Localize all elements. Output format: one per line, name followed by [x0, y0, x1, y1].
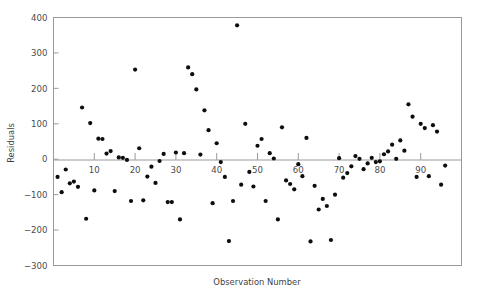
x-tick-label: 70 — [334, 165, 345, 175]
data-point — [219, 160, 223, 164]
data-point — [125, 158, 129, 162]
data-point — [80, 105, 84, 109]
x-axis-tick-labels: 102030405060708090 — [89, 165, 426, 175]
data-point — [247, 170, 251, 174]
data-point — [104, 151, 108, 155]
data-point — [121, 156, 125, 160]
data-point — [64, 167, 68, 171]
data-point — [96, 137, 100, 141]
data-point — [76, 185, 80, 189]
x-tick-label: 40 — [211, 165, 222, 175]
data-point — [88, 121, 92, 125]
y-tick-label: −200 — [24, 225, 48, 235]
data-point — [113, 189, 117, 193]
x-tick-label: 30 — [170, 165, 181, 175]
data-point — [182, 151, 186, 155]
y-tick-label: 400 — [31, 13, 47, 23]
x-tick-label: 20 — [130, 165, 141, 175]
x-tick-label: 60 — [293, 165, 304, 175]
data-point — [406, 102, 410, 106]
data-point — [186, 65, 190, 69]
data-point — [259, 137, 263, 141]
data-point — [439, 183, 443, 187]
data-point — [264, 199, 268, 203]
x-tick-label: 50 — [252, 165, 263, 175]
data-point — [419, 122, 423, 126]
data-point — [349, 164, 353, 168]
y-tick-label: 0 — [42, 154, 47, 164]
data-point — [268, 151, 272, 155]
data-point — [145, 174, 149, 178]
data-point — [202, 108, 206, 112]
data-point — [68, 181, 72, 185]
data-point — [374, 160, 378, 164]
data-point — [141, 198, 145, 202]
data-point — [92, 188, 96, 192]
data-point — [410, 115, 414, 119]
data-point — [206, 128, 210, 132]
data-point — [341, 176, 345, 180]
x-axis-title: Observation Number — [213, 277, 301, 287]
data-point — [109, 149, 113, 153]
data-point — [243, 122, 247, 126]
data-point — [255, 144, 259, 148]
data-point — [378, 159, 382, 163]
data-point — [402, 149, 406, 153]
data-point — [60, 190, 64, 194]
data-point — [239, 183, 243, 187]
data-point — [276, 217, 280, 221]
data-point — [178, 217, 182, 221]
data-point — [251, 184, 255, 188]
data-point — [353, 154, 357, 158]
y-tick-label: 300 — [31, 48, 47, 58]
data-point — [382, 152, 386, 156]
data-point — [162, 152, 166, 156]
data-point — [333, 193, 337, 197]
data-point — [390, 143, 394, 147]
data-point — [100, 137, 104, 141]
data-point — [366, 161, 370, 165]
x-tick-label: 10 — [89, 165, 100, 175]
data-point — [117, 155, 121, 159]
data-point — [227, 239, 231, 243]
data-point — [443, 163, 447, 167]
data-point — [304, 136, 308, 140]
data-point — [55, 175, 59, 179]
y-tick-label: −300 — [24, 261, 48, 271]
y-axis-tick-labels: −300−200−1000100200300400 — [24, 13, 48, 271]
data-point — [321, 197, 325, 201]
x-tick-label: 80 — [374, 165, 385, 175]
data-point — [423, 126, 427, 130]
data-point — [345, 171, 349, 175]
data-point — [280, 125, 284, 129]
y-axis-ticks — [54, 18, 59, 266]
x-tick-label: 90 — [415, 165, 426, 175]
data-point — [329, 238, 333, 242]
data-point — [296, 162, 300, 166]
data-point — [157, 159, 161, 163]
data-point — [129, 199, 133, 203]
y-axis-title: Residuals — [6, 123, 16, 163]
data-point — [170, 200, 174, 204]
data-point — [174, 150, 178, 154]
data-point — [223, 175, 227, 179]
data-point — [300, 174, 304, 178]
data-point — [398, 138, 402, 142]
data-point — [357, 157, 361, 161]
data-point — [288, 182, 292, 186]
data-point — [149, 165, 153, 169]
data-point — [235, 23, 239, 27]
data-point — [284, 178, 288, 182]
data-point — [211, 201, 215, 205]
chart-canvas: −300−200−1000100200300400 10203040506070… — [0, 0, 479, 294]
data-point — [370, 156, 374, 160]
data-point — [133, 67, 137, 71]
data-point — [317, 207, 321, 211]
data-point — [415, 175, 419, 179]
y-tick-label: −100 — [24, 190, 48, 200]
data-point — [231, 199, 235, 203]
data-point — [72, 179, 76, 183]
data-point — [361, 167, 365, 171]
data-points-group — [55, 23, 447, 243]
data-point — [272, 156, 276, 160]
